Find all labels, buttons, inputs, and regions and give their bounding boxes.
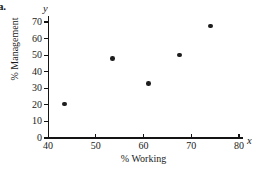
y-tick-label: 40	[32, 67, 42, 77]
x-axis-title: % Working	[48, 154, 239, 164]
y-tick-mark	[44, 137, 49, 138]
y-tick-mark	[44, 71, 49, 72]
y-tick-mark	[44, 55, 49, 56]
y-tick-label: 20	[32, 100, 42, 110]
x-tick-mark	[191, 134, 192, 139]
x-tick-label: 60	[139, 141, 149, 151]
x-tick-label: 70	[186, 141, 196, 151]
data-point	[62, 102, 67, 107]
x-tick-label: 50	[91, 141, 101, 151]
data-point	[177, 53, 182, 58]
y-tick-mark	[44, 104, 49, 105]
data-point	[110, 56, 115, 61]
scatter-plot-figure: a. y x 010203040506070 4050607080 % Work…	[0, 0, 257, 171]
y-tick-label: 10	[32, 116, 42, 126]
x-tick-label: 40	[43, 141, 53, 151]
plot-area: 010203040506070 4050607080	[48, 22, 239, 138]
x-tick-mark	[143, 134, 144, 139]
x-tick-mark	[95, 134, 96, 139]
y-tick-mark	[44, 121, 49, 122]
data-point	[208, 24, 213, 29]
y-axis-line	[48, 16, 49, 138]
y-axis-title: % Management	[10, 0, 20, 104]
y-tick-label: 70	[32, 17, 42, 27]
data-point	[146, 81, 151, 86]
part-label: a.	[0, 1, 6, 12]
y-tick-label: 0	[37, 133, 42, 143]
y-tick-label: 50	[32, 50, 42, 60]
y-tick-label: 60	[32, 34, 42, 44]
y-tick-mark	[44, 21, 49, 22]
y-axis-variable-symbol: y	[43, 4, 48, 15]
x-tick-mark	[238, 134, 239, 139]
y-tick-label: 30	[32, 83, 42, 93]
y-tick-mark	[44, 88, 49, 89]
x-tick-label: 80	[234, 141, 244, 151]
y-tick-mark	[44, 38, 49, 39]
x-axis-variable-symbol: x	[247, 136, 252, 147]
